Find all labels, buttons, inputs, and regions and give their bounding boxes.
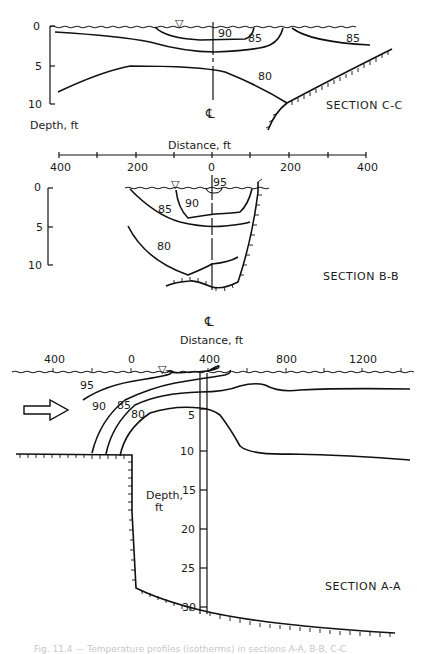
isotherm-label-80: 80	[157, 240, 171, 253]
distance-axis-label: Distance, ft	[180, 334, 244, 347]
isotherm-80	[58, 66, 287, 103]
riverbank-c-c	[268, 49, 392, 130]
isotherm-label-85-right: 85	[346, 32, 360, 45]
water-surface-icon: ▽	[158, 363, 167, 376]
distance-tick-200-left: 200	[127, 161, 148, 174]
svg-text:800: 800	[276, 353, 297, 366]
depth-tick-0: 0	[33, 20, 40, 33]
depth-tick-5: 5	[35, 60, 42, 73]
svg-text:5: 5	[36, 221, 43, 234]
svg-text:1200: 1200	[349, 353, 377, 366]
svg-text:0: 0	[128, 353, 135, 366]
svg-text:10: 10	[180, 445, 194, 458]
svg-text:0: 0	[34, 181, 41, 194]
section-c-c: 0 5 10 Depth, ft ▽ ℄ 90 85 85 80 SECTION…	[28, 17, 403, 132]
flow-direction-arrow	[24, 400, 68, 420]
depth-axis-b-b: 0 5 10	[28, 181, 53, 272]
isotherm-80	[128, 226, 238, 275]
section-title-a-a: SECTION A-A	[325, 580, 401, 593]
water-surface-icon: ▽	[175, 17, 184, 30]
svg-text:10: 10	[28, 259, 42, 272]
centerline-symbol: ℄	[204, 314, 214, 329]
section-b-b: Distance, ft 400 200 0 200 400 0 5 10	[28, 139, 399, 329]
svg-text:25: 25	[181, 562, 195, 575]
svg-text:20: 20	[181, 523, 195, 536]
isotherm-label-90: 90	[92, 400, 106, 413]
svg-text:400: 400	[199, 353, 220, 366]
isotherm-label-80: 80	[258, 70, 272, 83]
depth-axis-label: Depth, ft	[30, 119, 79, 132]
depth-axis-label: Depth,	[146, 489, 183, 502]
isotherm-label-85: 85	[117, 399, 131, 412]
isotherm-90	[92, 370, 230, 453]
isotherm-95	[83, 366, 219, 400]
depth-axis-c-c: 0 5 10 Depth, ft	[28, 20, 79, 132]
figure-caption: Fig. 11.4 — Temperature profiles (isothe…	[34, 644, 346, 654]
isotherm-85	[106, 384, 410, 454]
distance-tick-200-right: 200	[280, 161, 301, 174]
svg-text:5: 5	[188, 409, 195, 422]
water-surface-line	[50, 26, 356, 28]
distance-axis-b-b: Distance, ft 400 200 0 200 400	[50, 139, 378, 174]
channel-bed-a-a	[16, 454, 395, 633]
distance-tick-0: 0	[208, 161, 215, 174]
isotherm-label-90: 90	[185, 197, 199, 210]
distance-tick-400-right: 400	[357, 161, 378, 174]
water-surface-line	[125, 187, 269, 189]
depth-tick-10: 10	[28, 98, 42, 111]
section-title-c-c: SECTION C-C	[326, 99, 403, 112]
svg-text:15: 15	[182, 484, 196, 497]
svg-text:ft: ft	[155, 501, 164, 514]
svg-text:400: 400	[44, 353, 65, 366]
isotherm-label-85: 85	[248, 32, 262, 45]
isotherm-80	[120, 407, 410, 460]
isotherm-90	[155, 27, 254, 40]
isotherm-label-85: 85	[158, 203, 172, 216]
centerline-symbol: ℄	[205, 106, 215, 121]
isotherm-label-90: 90	[218, 27, 232, 40]
depth-gauge-a-a: 5 10 15 20 25 30 Depth, ft	[146, 373, 207, 614]
isotherm-label-95: 95	[213, 176, 227, 189]
distance-axis-label: Distance, ft	[168, 139, 232, 152]
distance-tick-400-left: 400	[50, 161, 71, 174]
temperature-cross-section-figure: 0 5 10 Depth, ft ▽ ℄ 90 85 85 80 SECTION…	[0, 0, 427, 654]
isotherm-label-80: 80	[131, 408, 145, 421]
water-surface-icon: ▽	[171, 178, 180, 191]
water-surface-line	[12, 371, 414, 373]
isotherm-label-95: 95	[80, 379, 94, 392]
distance-axis-a-a: 400 0 400 800 1200	[44, 353, 377, 366]
section-a-a: Distance, ft 400 0 400 800 1200 ▽ 5 10 1…	[12, 334, 414, 637]
section-title-b-b: SECTION B-B	[323, 270, 399, 283]
